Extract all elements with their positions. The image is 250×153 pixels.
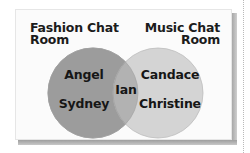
fashion-label-line2: Room [30,34,119,46]
music-chat-room-label: Music Chat Room [145,22,220,46]
member-angel: Angel [64,67,103,82]
fashion-chat-room-label: Fashion Chat Room [30,22,119,46]
member-sydney: Sydney [59,96,109,111]
music-label-line2: Room [145,34,220,46]
member-candace: Candace [141,67,199,82]
member-ian: Ian [115,82,136,97]
member-christine: Christine [139,96,201,111]
